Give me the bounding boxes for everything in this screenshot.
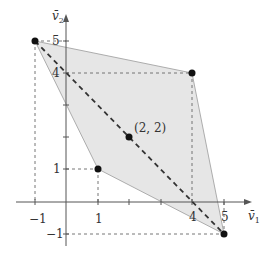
y-tick-label-1: 1 <box>53 162 61 176</box>
center-point-label: (2, 2) <box>134 121 166 135</box>
x-tick-label-4: 4 <box>189 210 197 224</box>
point-2-2 <box>126 134 133 141</box>
point-4-4 <box>189 70 196 77</box>
y-tick-label-neg1: −1 <box>46 227 64 241</box>
x-tick-label-1: 1 <box>95 212 103 226</box>
x-axis-arrow-icon <box>244 199 252 205</box>
y-axis-label-subscript: 2 <box>59 16 64 25</box>
convex-hull-diagram: (2, 2) −1 1 4 5 5 4 1 −1 v̄1 v̄2 <box>0 0 268 254</box>
point-neg1-5 <box>32 38 39 45</box>
x-tick-label-5: 5 <box>221 210 229 224</box>
x-axis-label-subscript: 1 <box>255 216 260 225</box>
y-axis-arrow-icon <box>63 14 69 22</box>
x-tick-label-neg1: −1 <box>29 212 47 226</box>
y-axis-label: v̄2 <box>52 9 64 25</box>
point-5-neg1 <box>221 231 228 238</box>
x-axis-label: v̄1 <box>248 209 260 225</box>
y-tick-label-5: 5 <box>52 34 60 48</box>
y-tick-label-4: 4 <box>52 66 60 80</box>
point-1-1 <box>95 166 102 173</box>
